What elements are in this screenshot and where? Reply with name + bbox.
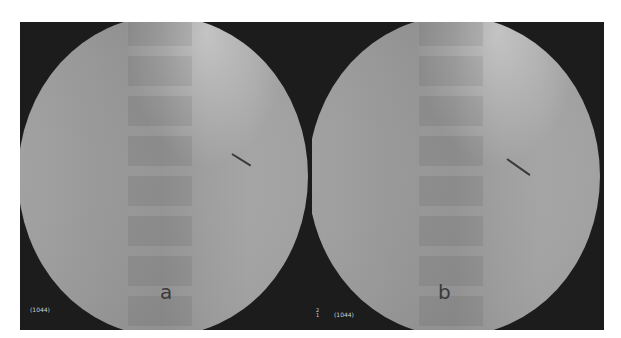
- fluoroscopy-image-b: [312, 22, 600, 330]
- panel-label-a: a: [160, 280, 172, 304]
- panel-label-b: b: [438, 280, 451, 304]
- panel-a: a (1044): [20, 22, 312, 330]
- spine-shadow: [419, 22, 483, 330]
- figure-frame: a (1044) 2 1 b (1044): [20, 22, 604, 330]
- panel-b: 2 1 b (1044): [312, 22, 604, 330]
- panel-marker-b: 2 1: [316, 308, 319, 318]
- panel-code-a: (1044): [30, 306, 50, 313]
- panel-code-b: (1044): [334, 311, 354, 318]
